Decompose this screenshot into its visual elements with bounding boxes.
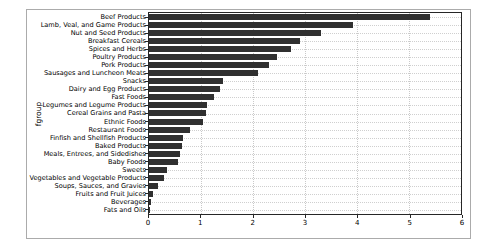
bar-row <box>149 134 461 142</box>
category-label: Fast Foods <box>27 93 146 101</box>
bar-row <box>149 182 461 190</box>
bar-row <box>149 21 461 29</box>
figure-frame: fgroup Beef ProductsLamb, Veal, and Game… <box>26 9 471 239</box>
x-tick-label: 5 <box>398 219 422 227</box>
bar <box>149 175 164 181</box>
category-label: Beef Products <box>27 13 146 21</box>
x-tick-mark <box>357 215 358 218</box>
category-label: Restaurant Foods <box>27 126 146 134</box>
bar <box>149 46 291 52</box>
category-label: Nut and Seed Products <box>27 29 146 37</box>
bar-row <box>149 61 461 69</box>
category-label: Lamb, Veal, and Game Products <box>27 21 146 29</box>
bar <box>149 127 190 133</box>
bar <box>149 14 430 20</box>
x-tick-mark <box>410 215 411 218</box>
bar-row <box>149 158 461 166</box>
bar <box>149 119 203 125</box>
bar-row <box>149 69 461 77</box>
category-label: Fats and Oils <box>27 206 146 214</box>
bar-row <box>149 190 461 198</box>
category-label: Pork Products <box>27 61 146 69</box>
x-tick-label: 2 <box>241 219 265 227</box>
bar-row <box>149 206 461 214</box>
bar <box>149 207 150 213</box>
bar-row <box>149 13 461 21</box>
bar <box>149 110 206 116</box>
bar <box>149 167 167 173</box>
x-tick-label: 0 <box>136 219 160 227</box>
category-label: Spices and Herbs <box>27 45 146 53</box>
bar-row <box>149 118 461 126</box>
bar-row <box>149 93 461 101</box>
bar-row <box>149 166 461 174</box>
bar-row <box>149 101 461 109</box>
bar-row <box>149 150 461 158</box>
bar <box>149 199 151 205</box>
bar-row <box>149 53 461 61</box>
bar <box>149 30 321 36</box>
bar <box>149 143 182 149</box>
category-label: Dairy and Egg Products <box>27 85 146 93</box>
category-label: Snacks <box>27 77 146 85</box>
bar-row <box>149 45 461 53</box>
category-label: Baby Foods <box>27 158 146 166</box>
category-label: Legumes and Legume Products <box>27 101 146 109</box>
x-tick-mark <box>200 215 201 218</box>
category-label: Fruits and Fruit Juices <box>27 190 146 198</box>
x-tick-mark <box>253 215 254 218</box>
bars-layer <box>149 13 461 214</box>
bar <box>149 62 269 68</box>
category-label: Beverages <box>27 198 146 206</box>
bar <box>149 94 214 100</box>
category-label: Sausages and Luncheon Meats <box>27 69 146 77</box>
bar <box>149 135 183 141</box>
category-label: Vegetables and Vegetable Products <box>27 174 146 182</box>
category-label: Finfish and Shellfish Products <box>27 134 146 142</box>
bar-row <box>149 77 461 85</box>
bar <box>149 183 158 189</box>
bar <box>149 159 178 165</box>
bar-row <box>149 29 461 37</box>
bar <box>149 151 180 157</box>
bar <box>149 54 277 60</box>
bar-row <box>149 142 461 150</box>
x-tick-mark <box>148 215 149 218</box>
bar <box>149 86 220 92</box>
bar <box>149 22 353 28</box>
x-axis-ticks <box>148 215 462 218</box>
bar <box>149 191 153 197</box>
category-label: Meals, Entrees, and Sidedishes <box>27 150 146 158</box>
category-label: Breakfast Cereals <box>27 37 146 45</box>
category-label: Poultry Products <box>27 53 146 61</box>
x-tick-mark <box>462 215 463 218</box>
x-tick-label: 6 <box>450 219 474 227</box>
bar-row <box>149 85 461 93</box>
x-tick-label: 1 <box>188 219 212 227</box>
bar-row <box>149 174 461 182</box>
plot-area <box>148 12 462 215</box>
bar <box>149 70 258 76</box>
bar-row <box>149 126 461 134</box>
category-label: Sweets <box>27 166 146 174</box>
bar-row <box>149 198 461 206</box>
bar <box>149 102 207 108</box>
x-tick-mark <box>305 215 306 218</box>
bar-row <box>149 37 461 45</box>
x-axis-tick-labels: 0123456 <box>148 219 462 229</box>
category-label: Cereal Grains and Pasta <box>27 109 146 117</box>
category-labels: Beef ProductsLamb, Veal, and Game Produc… <box>27 13 146 214</box>
category-label: Ethnic Foods <box>27 118 146 126</box>
bar <box>149 78 223 84</box>
x-tick-label: 3 <box>293 219 317 227</box>
bar <box>149 38 300 44</box>
category-label: Baked Products <box>27 142 146 150</box>
category-label: Soups, Sauces, and Gravies <box>27 182 146 190</box>
x-tick-label: 4 <box>345 219 369 227</box>
bar-row <box>149 109 461 117</box>
